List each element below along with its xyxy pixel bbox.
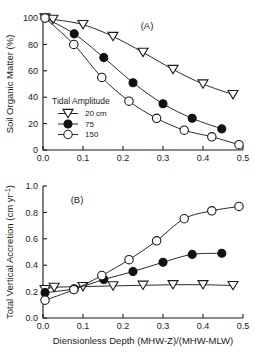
open-circle-icon — [235, 202, 243, 210]
x-tick-label: 0.4 — [197, 153, 210, 163]
series-20-cm — [40, 14, 238, 99]
legend-entry-label: 75 — [85, 120, 94, 129]
y-tick-label: 0.0 — [25, 313, 38, 323]
panel-label: (B) — [71, 194, 84, 205]
x-tick-label: 0.1 — [77, 321, 90, 331]
open-circle-icon — [41, 14, 49, 22]
panel-label: (A) — [141, 20, 154, 31]
y-tick-label: 0.8 — [25, 208, 38, 218]
legend-entry-label: 20 cm — [85, 109, 107, 118]
open-triangle-down-icon — [108, 32, 118, 40]
open-circle-icon — [180, 215, 188, 223]
y-tick-label: 60 — [28, 66, 38, 76]
panel-a-plot: 0.00.10.20.30.40.5020406080100(A)Soil Or… — [0, 0, 255, 172]
x-tick-label: 0.3 — [157, 153, 170, 163]
open-circle-icon — [235, 141, 243, 149]
axis-lines — [43, 186, 243, 318]
caption-strip — [0, 345, 255, 354]
open-circle-icon — [98, 271, 106, 279]
y-tick-label: 40 — [28, 92, 38, 102]
open-circle-icon — [125, 97, 133, 105]
open-circle-icon — [70, 285, 78, 293]
x-tick-label: 0.1 — [77, 153, 90, 163]
open-triangle-down-icon — [78, 21, 88, 29]
open-circle-icon — [152, 237, 160, 245]
open-triangle-down-icon — [228, 90, 238, 98]
y-tick-label: 80 — [28, 40, 38, 50]
y-tick-label: 0.6 — [25, 234, 38, 244]
y-tick-label: 100 — [23, 13, 38, 23]
filled-circle-icon — [218, 125, 226, 133]
open-triangle-down-icon — [168, 65, 178, 73]
panel-b-vertical-accretion: 0.00.10.20.30.40.50.00.20.40.60.81.0(B)T… — [0, 172, 255, 354]
open-circle-icon — [208, 207, 216, 215]
filled-circle-icon — [188, 250, 196, 258]
filled-circle-icon — [70, 30, 78, 38]
x-tick-label: 0.5 — [237, 321, 250, 331]
filled-circle-icon — [100, 54, 108, 62]
x-tick-label: 0.0 — [37, 321, 50, 331]
y-tick-label: 0.4 — [25, 260, 38, 270]
open-triangle-down-icon — [138, 48, 148, 56]
x-tick-label: 0.3 — [157, 321, 170, 331]
y-tick-label: 0.2 — [25, 287, 38, 297]
y-tick-label: 1.0 — [25, 181, 38, 191]
filled-circle-icon — [129, 268, 137, 276]
y-axis-title: Total Vertical Accretion (cm yr-1) — [4, 185, 16, 319]
open-circle-icon — [125, 255, 133, 263]
x-tick-label: 0.4 — [197, 321, 210, 331]
open-circle-icon — [98, 73, 106, 81]
open-circle-icon — [41, 296, 49, 304]
figure-container: 0.00.10.20.30.40.5020406080100(A)Soil Or… — [0, 0, 255, 354]
y-tick-label: 0 — [33, 145, 38, 155]
panel-b-plot: 0.00.10.20.30.40.50.00.20.40.60.81.0(B)T… — [0, 172, 255, 354]
filled-circle-icon — [188, 114, 196, 122]
panel-a-soil-organic-matter: 0.00.10.20.30.40.5020406080100(A)Soil Or… — [0, 0, 255, 172]
filled-circle-icon — [64, 120, 72, 128]
legend-entry-label: 150 — [85, 130, 99, 139]
x-tick-label: 0.2 — [117, 321, 130, 331]
x-tick-label: 0.5 — [237, 153, 250, 163]
legend: Tidal Amplitude20 cm75150 — [52, 96, 110, 139]
open-circle-icon — [180, 126, 188, 134]
open-circle-icon — [152, 114, 160, 122]
y-tick-label: 20 — [28, 119, 38, 129]
open-circle-icon — [208, 133, 216, 141]
filled-circle-icon — [129, 79, 137, 87]
legend-title: Tidal Amplitude — [52, 96, 110, 106]
x-tick-label: 0.0 — [37, 153, 50, 163]
open-triangle-down-icon — [198, 80, 208, 88]
y-axis-title: Soil Organic Matter (%) — [4, 35, 15, 134]
filled-circle-icon — [218, 249, 226, 257]
filled-circle-icon — [159, 258, 167, 266]
x-tick-label: 0.2 — [117, 153, 130, 163]
open-circle-icon — [64, 130, 72, 138]
filled-circle-icon — [159, 100, 167, 108]
open-circle-icon — [70, 40, 78, 48]
